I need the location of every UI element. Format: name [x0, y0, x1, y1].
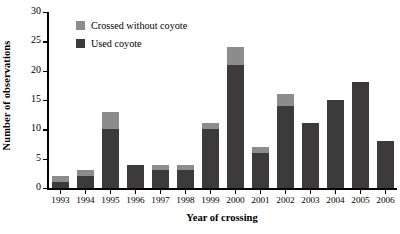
bar-segment-crossed-without-coyote: [277, 94, 294, 106]
y-tick-label: 15: [31, 93, 41, 104]
y-tick-label: 0: [36, 181, 41, 192]
bar-2004: [327, 100, 344, 188]
bar-1998: [177, 165, 194, 188]
bar-2000: [227, 47, 244, 188]
x-tick-mark: [260, 190, 261, 194]
x-tick-mark: [160, 190, 161, 194]
bar-segment-used-coyote: [52, 182, 69, 188]
bar-segment-used-coyote: [102, 129, 119, 188]
y-tick-mark: [43, 12, 48, 13]
x-tick-label: 2006: [371, 195, 400, 205]
y-tick-label: 5: [36, 152, 41, 163]
bar-segment-used-coyote: [252, 153, 269, 188]
chart-legend: Crossed without coyote Used coyote: [76, 16, 256, 52]
bar-chart-figure: Number of observations 051015202530 1993…: [0, 0, 400, 234]
legend-item-crossed-without-coyote: Crossed without coyote: [76, 16, 256, 34]
bar-segment-used-coyote: [152, 170, 169, 188]
y-tick-mark: [43, 71, 48, 72]
bar-segment-used-coyote: [127, 165, 144, 188]
bar-segment-used-coyote: [352, 82, 369, 188]
x-tick-mark: [335, 190, 336, 194]
bar-segment-used-coyote: [327, 100, 344, 188]
x-axis-title: Year of crossing: [47, 212, 397, 223]
x-axis-line: [47, 188, 397, 190]
legend-swatch-icon: [76, 21, 85, 30]
x-tick-mark: [135, 190, 136, 194]
x-tick-mark: [210, 190, 211, 194]
bar-1994: [77, 170, 94, 188]
y-tick-label: 10: [31, 122, 41, 133]
bar-1997: [152, 165, 169, 188]
y-tick-mark: [43, 129, 48, 130]
bar-segment-used-coyote: [202, 129, 219, 188]
bar-segment-crossed-without-coyote: [102, 112, 119, 130]
y-tick-label: 30: [31, 5, 41, 16]
x-tick-mark: [360, 190, 361, 194]
bar-2001: [252, 147, 269, 188]
x-tick-mark: [110, 190, 111, 194]
legend-swatch-icon: [76, 39, 85, 48]
x-tick-mark: [385, 190, 386, 194]
legend-item-used-coyote: Used coyote: [76, 34, 256, 52]
bar-segment-used-coyote: [277, 106, 294, 188]
bar-2003: [302, 123, 319, 188]
y-tick-label: 25: [31, 34, 41, 45]
bar-1993: [52, 176, 69, 188]
y-tick-mark: [43, 159, 48, 160]
y-tick-mark: [43, 41, 48, 42]
bar-segment-used-coyote: [377, 141, 394, 188]
bar-2002: [277, 94, 294, 188]
x-tick-mark: [285, 190, 286, 194]
x-tick-mark: [310, 190, 311, 194]
bar-1995: [102, 112, 119, 188]
y-axis-line: [47, 12, 49, 189]
bar-segment-used-coyote: [227, 65, 244, 188]
x-tick-mark: [185, 190, 186, 194]
y-tick-label: 20: [31, 64, 41, 75]
y-tick-mark: [43, 188, 48, 189]
legend-label: Crossed without coyote: [91, 20, 187, 31]
x-tick-mark: [235, 190, 236, 194]
bar-1999: [202, 123, 219, 188]
y-axis-title-label: Number of observations: [2, 40, 13, 150]
x-tick-mark: [60, 190, 61, 194]
legend-label: Used coyote: [91, 38, 142, 49]
bar-segment-used-coyote: [177, 170, 194, 188]
y-axis-title: Number of observations: [0, 0, 14, 190]
y-tick-mark: [43, 100, 48, 101]
bar-segment-used-coyote: [302, 123, 319, 188]
bar-1996: [127, 165, 144, 188]
x-tick-mark: [85, 190, 86, 194]
bar-segment-used-coyote: [77, 176, 94, 188]
bar-2005: [352, 82, 369, 188]
bar-2006: [377, 141, 394, 188]
